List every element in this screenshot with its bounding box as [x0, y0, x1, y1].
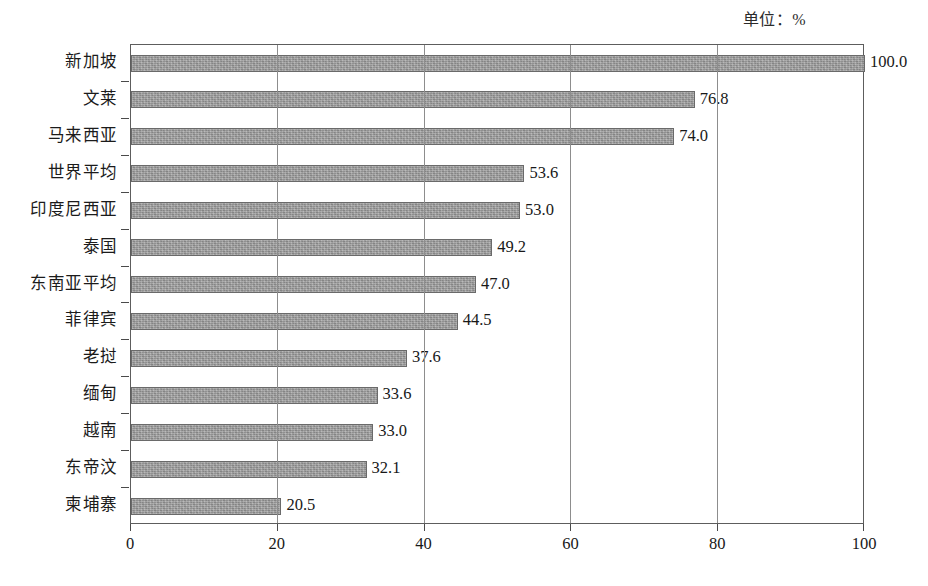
x-axis-tick: [863, 524, 864, 531]
y-axis-tick: [121, 302, 129, 303]
x-axis-tick: [130, 524, 131, 531]
category-label: 柬埔寨: [65, 487, 118, 524]
bar-row: 33.6: [131, 377, 863, 414]
y-axis-tick: [121, 487, 129, 488]
bar: [131, 498, 281, 515]
x-axis-tick-label: 40: [415, 534, 432, 554]
category-label: 泰国: [83, 229, 118, 266]
scan-artifact-text: [255, 581, 675, 586]
bar-value-label: 100.0: [865, 52, 907, 72]
category-label: 菲律宾: [65, 302, 118, 339]
bar: [131, 239, 492, 256]
bar: [131, 55, 865, 72]
y-axis-tick: [121, 339, 129, 340]
bar-row: 44.5: [131, 303, 863, 340]
category-label: 越南: [83, 413, 118, 450]
bar-value-label: 74.0: [674, 126, 708, 146]
bar: [131, 313, 458, 330]
category-axis: 新加坡文莱马来西亚世界平均印度尼西亚泰国东南亚平均菲律宾老挝缅甸越南东帝汶柬埔寨: [0, 44, 126, 524]
category-label: 文莱: [83, 81, 118, 118]
bar: [131, 128, 674, 145]
y-axis-tick: [121, 192, 129, 193]
bar-row: 49.2: [131, 230, 863, 267]
bar: [131, 387, 378, 404]
bar-row: 76.8: [131, 82, 863, 119]
category-label: 印度尼西亚: [30, 192, 118, 229]
bar-row: 74.0: [131, 119, 863, 156]
bar-value-label: 53.0: [520, 200, 554, 220]
plot-area: 100.076.874.053.653.049.247.044.537.633.…: [130, 44, 864, 524]
y-axis-tick: [121, 376, 129, 377]
x-axis-tick: [277, 524, 278, 531]
bar: [131, 91, 695, 108]
bar: [131, 424, 373, 441]
category-label: 马来西亚: [48, 118, 118, 155]
gridline-80: [717, 45, 718, 523]
bar-rows: 100.076.874.053.653.049.247.044.537.633.…: [131, 45, 863, 523]
x-axis-tick: [570, 524, 571, 531]
bar-row: 53.0: [131, 193, 863, 230]
category-label: 老挝: [83, 339, 118, 376]
gridline-60: [570, 45, 571, 523]
category-label: 缅甸: [83, 376, 118, 413]
unit-annotation: 单位：%: [743, 6, 806, 30]
x-axis-tick-label: 0: [126, 534, 134, 554]
bar-value-label: 53.6: [524, 163, 558, 183]
bar-value-label: 20.5: [281, 495, 315, 515]
y-axis-tick: [121, 118, 129, 119]
y-axis-tick: [121, 229, 129, 230]
y-axis-tick: [121, 413, 129, 414]
y-axis-tick: [121, 155, 129, 156]
bar-row: 37.6: [131, 340, 863, 377]
bar-chart: 单位：% 新加坡文莱马来西亚世界平均印度尼西亚泰国东南亚平均菲律宾老挝缅甸越南东…: [0, 0, 928, 586]
gridline-40: [424, 45, 425, 523]
category-label: 世界平均: [48, 155, 118, 192]
category-label: 东南亚平均: [30, 266, 118, 303]
x-axis-tick-label: 60: [562, 534, 579, 554]
bar-value-label: 32.1: [367, 458, 401, 478]
bar-row: 20.5: [131, 488, 863, 525]
x-axis-tick: [717, 524, 718, 531]
x-axis-tick-label: 20: [269, 534, 286, 554]
bar: [131, 350, 407, 367]
x-axis-tick-label: 80: [709, 534, 726, 554]
bar: [131, 165, 524, 182]
bar-value-label: 44.5: [458, 310, 492, 330]
gridline-20: [277, 45, 278, 523]
bar: [131, 461, 367, 478]
y-axis-tick: [121, 450, 129, 451]
bar-row: 32.1: [131, 451, 863, 488]
bar-row: 47.0: [131, 267, 863, 304]
x-axis-tick-label: 100: [852, 534, 877, 554]
bar-value-label: 47.0: [476, 274, 510, 294]
bar-value-label: 49.2: [492, 237, 526, 257]
bar-row: 33.0: [131, 414, 863, 451]
bar-value-label: 76.8: [695, 89, 729, 109]
category-label: 东帝汶: [65, 450, 118, 487]
bar: [131, 202, 520, 219]
bar-value-label: 33.0: [373, 421, 407, 441]
category-label: 新加坡: [65, 44, 118, 81]
bar-value-label: 33.6: [378, 384, 412, 404]
bar-row: 100.0: [131, 45, 863, 82]
x-axis-tick: [424, 524, 425, 531]
bar-row: 53.6: [131, 156, 863, 193]
y-axis-tick: [121, 266, 129, 267]
y-axis-tick: [121, 81, 129, 82]
